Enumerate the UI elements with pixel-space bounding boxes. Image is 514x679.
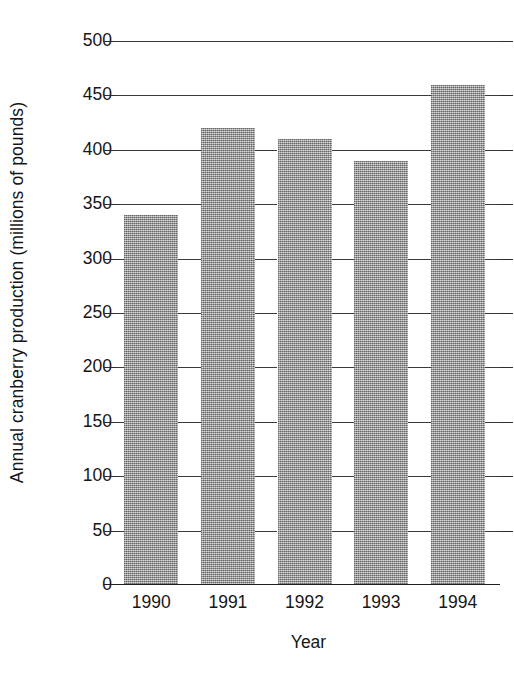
gridline-segment	[178, 476, 201, 477]
x-tick-label: 1990	[124, 594, 178, 612]
gridline-segment	[408, 422, 431, 423]
gridline-segment	[117, 150, 201, 151]
y-axis-tick-right	[500, 531, 513, 532]
gridline-segment	[485, 259, 500, 260]
gridline-segment	[117, 476, 124, 477]
y-tick-label: 350	[46, 195, 112, 213]
y-axis-tick-left	[104, 531, 117, 532]
gridline-segment	[485, 150, 500, 151]
y-axis-tick-right	[500, 367, 513, 368]
y-axis-tick-right	[500, 422, 513, 423]
y-axis-tick-right	[500, 313, 513, 314]
gridline-segment	[255, 259, 278, 260]
gridline-segment	[255, 531, 278, 532]
bar-1992	[278, 139, 332, 585]
y-tick-label: 250	[46, 304, 112, 322]
gridline-segment	[178, 422, 201, 423]
y-axis-tick-left	[104, 41, 117, 42]
gridline-segment	[117, 422, 124, 423]
gridline-segment	[485, 422, 500, 423]
x-tick-label: 1994	[431, 594, 485, 612]
gridline-segment	[485, 476, 500, 477]
gridline-segment	[255, 367, 278, 368]
gridline-segment	[485, 531, 500, 532]
x-tick-label: 1991	[201, 594, 255, 612]
gridline-segment	[485, 204, 500, 205]
x-axis-line	[104, 584, 500, 585]
gridline-segment	[332, 259, 355, 260]
gridline-segment	[485, 367, 500, 368]
bar-1990	[124, 215, 178, 585]
gridline-segment	[255, 204, 278, 205]
y-axis-tick-right	[500, 204, 513, 205]
gridline-segment	[408, 259, 431, 260]
y-axis-tick-right	[500, 476, 513, 477]
gridline-segment	[408, 476, 431, 477]
y-tick-label: 200	[46, 359, 112, 377]
y-tick-label: 0	[46, 576, 112, 594]
y-axis-tick-left	[104, 259, 117, 260]
gridline-segment	[332, 204, 355, 205]
x-tick-label: 1993	[354, 594, 408, 612]
gridline-segment	[485, 313, 500, 314]
gridline-segment	[178, 367, 201, 368]
gridline-segment	[178, 531, 201, 532]
y-axis-tick-left	[104, 422, 117, 423]
gridline-segment	[485, 95, 500, 96]
y-axis-tick-left	[104, 204, 117, 205]
y-tick-label: 300	[46, 250, 112, 268]
y-axis-tick-labels: 050100150200250300350400450500	[46, 0, 112, 679]
x-axis-tick-labels: 19901991199219931994	[117, 594, 500, 620]
y-axis-tick-right	[500, 259, 513, 260]
gridline-segment	[332, 150, 431, 151]
gridline-segment	[255, 150, 278, 151]
y-axis-tick-left	[104, 313, 117, 314]
gridline-segment	[332, 367, 355, 368]
y-axis-tick-left	[104, 95, 117, 96]
gridline-segment	[117, 367, 124, 368]
gridline-segment	[408, 367, 431, 368]
y-axis-tick-right	[500, 150, 513, 151]
gridline-segment	[408, 313, 431, 314]
plot-area	[117, 41, 500, 585]
y-tick-label: 50	[46, 522, 112, 540]
gridline-segment	[178, 259, 201, 260]
gridline-segment	[408, 531, 431, 532]
y-tick-label: 150	[46, 413, 112, 431]
bar-1991	[201, 128, 255, 585]
bar-1993	[354, 161, 408, 585]
y-axis-tick-left	[104, 476, 117, 477]
gridline-segment	[332, 531, 355, 532]
x-axis-title: Year	[117, 632, 500, 653]
y-axis-tick-left	[104, 367, 117, 368]
gridline-segment	[117, 259, 124, 260]
gridline-segment	[117, 313, 124, 314]
gridline-segment	[117, 41, 500, 42]
y-axis-tick-right	[500, 95, 513, 96]
gridline-segment	[255, 476, 278, 477]
y-tick-label: 450	[46, 87, 112, 105]
y-axis-title: Annual cranberry production (millions of…	[0, 0, 34, 585]
y-tick-label: 400	[46, 141, 112, 159]
gridline-segment	[117, 95, 431, 96]
gridline-segment	[255, 313, 278, 314]
gridline-segment	[332, 422, 355, 423]
bar-1994	[431, 85, 485, 585]
y-tick-label: 500	[46, 32, 112, 50]
x-tick-label: 1992	[278, 594, 332, 612]
gridline-segment	[255, 422, 278, 423]
gridline-segment	[332, 476, 355, 477]
gridline-segment	[178, 313, 201, 314]
y-axis-tick-right	[500, 41, 513, 42]
gridline-segment	[117, 531, 124, 532]
gridline-segment	[332, 313, 355, 314]
bar-chart-figure: Annual cranberry production (millions of…	[0, 0, 514, 679]
y-tick-label: 100	[46, 467, 112, 485]
gridline-segment	[408, 204, 431, 205]
y-axis-tick-left	[104, 150, 117, 151]
gridline-segment	[117, 204, 201, 205]
